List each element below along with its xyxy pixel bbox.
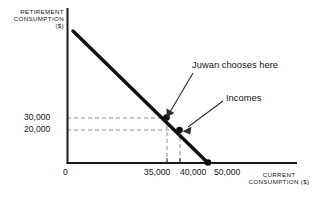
x-tick-label-50000: 50,000	[214, 168, 240, 178]
y-tick-label-20000: 20,000	[24, 125, 50, 135]
y-axis-title: RETIREMENT CONSUMPTION ($)	[6, 9, 64, 30]
y-tick-label-30000: 30,000	[24, 113, 50, 123]
annotation-juwan-chooses-here: Juwan chooses here	[192, 60, 278, 71]
point-incomes	[176, 127, 183, 134]
retirement-consumption-chart: RETIREMENT CONSUMPTION ($) CURRENT CONSU…	[0, 0, 314, 200]
leader-arrow-juwan	[167, 73, 194, 118]
x-tick-label-35000: 35,000	[144, 168, 170, 178]
annotation-incomes: Incomes	[226, 93, 261, 104]
x-axis-title: CURRENT CONSUMPTION ($)	[246, 172, 312, 186]
budget-constraint-line	[73, 31, 208, 163]
x-tick-label-40000: 40,000	[180, 168, 206, 178]
x-tick-label-0: 0	[63, 168, 68, 178]
point-x-intercept	[205, 159, 212, 166]
leader-arrow-incomes	[183, 101, 224, 135]
